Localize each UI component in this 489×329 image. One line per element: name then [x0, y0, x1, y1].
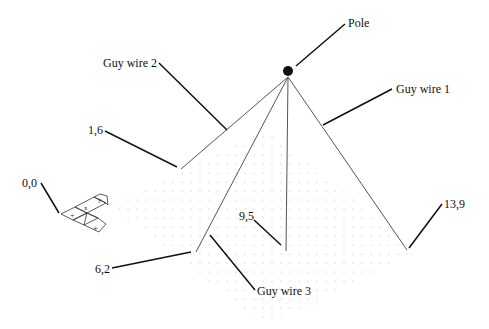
- label-1-6: 1,6: [88, 124, 103, 136]
- leader-6-2: [112, 252, 191, 268]
- svg-text:+: +: [93, 223, 98, 233]
- label-0-0: 0,0: [22, 177, 37, 189]
- leader-pole: [296, 24, 345, 66]
- label-guy-wire-1: Guy wire 1: [396, 83, 450, 95]
- label-13-9: 13,9: [444, 198, 465, 210]
- leader-guy-wire-2: [159, 63, 227, 130]
- leader-0-0: [41, 183, 59, 213]
- svg-text:y: y: [98, 196, 102, 204]
- leader-13-9: [409, 204, 442, 248]
- label-guy-wire-3: Guy wire 3: [257, 285, 311, 297]
- axis-arrows-icon: + x y +: [61, 194, 108, 233]
- leader-guy-wire-1: [323, 89, 392, 125]
- label-6-2: 6,2: [95, 263, 110, 275]
- label-pole: Pole: [348, 17, 369, 29]
- diagram-canvas: + x y +: [0, 0, 489, 329]
- svg-text:+: +: [70, 211, 75, 220]
- svg-text:x: x: [84, 204, 88, 212]
- leader-1-6: [105, 131, 177, 167]
- pole-top-icon: [283, 66, 293, 76]
- label-guy-wire-2: Guy wire 2: [103, 57, 157, 69]
- label-9-5: 9,5: [239, 210, 254, 222]
